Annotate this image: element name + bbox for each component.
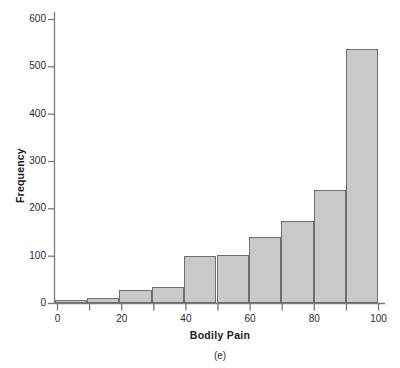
histogram-bar	[184, 256, 216, 303]
histogram-bar	[346, 49, 378, 303]
panel-label: (e)	[170, 350, 270, 361]
x-tick-label-0: 0	[44, 313, 72, 324]
histogram-bar	[314, 190, 346, 304]
histogram-bar	[249, 237, 281, 303]
x-tick-label-80: 80	[300, 313, 328, 324]
histogram-bar	[87, 298, 119, 304]
x-tick-label-20: 20	[108, 313, 136, 324]
histogram-chart: Frequency 600 500 400 300 200 100 0 0 20…	[0, 0, 400, 368]
histogram-bar	[281, 221, 313, 304]
histogram-bar	[217, 255, 249, 304]
x-tick-label-60: 60	[236, 313, 264, 324]
histogram-bar	[55, 300, 87, 303]
x-tick-label-40: 40	[172, 313, 200, 324]
x-tick-label-100: 100	[365, 313, 393, 324]
histogram-bar	[119, 290, 151, 303]
x-axis-title: Bodily Pain	[150, 329, 290, 341]
histogram-bar	[152, 287, 184, 303]
